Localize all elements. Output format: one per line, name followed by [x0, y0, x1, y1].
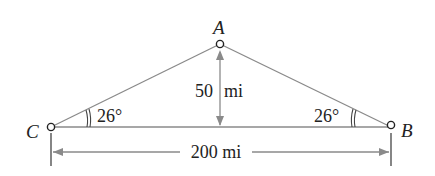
- point-A: [216, 40, 223, 47]
- base-label: 200 mi: [191, 142, 242, 162]
- vertex-label-C: C: [26, 121, 39, 142]
- height-label: 50mi: [195, 81, 243, 101]
- vertex-label-A: A: [211, 17, 225, 38]
- height-label-number: 50: [195, 81, 213, 101]
- height-label-unit: mi: [224, 81, 243, 101]
- vertex-label-B: B: [401, 120, 413, 141]
- height-dimension-arrow: [216, 50, 224, 126]
- angle-mark-C: [86, 109, 91, 127]
- angle-mark-B: [351, 109, 356, 127]
- point-C: [47, 123, 54, 130]
- triangle-diagram: A C B 26° 26° 50mi 200 mi: [0, 0, 435, 176]
- angle-label-C: 26°: [97, 106, 122, 126]
- angle-label-B: 26°: [314, 106, 339, 126]
- side-AB: [220, 44, 391, 127]
- point-B: [387, 121, 394, 128]
